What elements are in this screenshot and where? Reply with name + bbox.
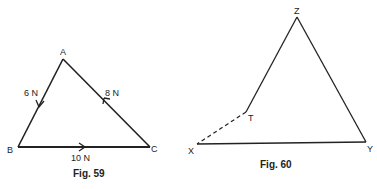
edge-tx-dashed: [197, 112, 246, 144]
vertex-b-label: B: [7, 145, 13, 155]
edge-xy: [197, 142, 366, 144]
vertex-z-label: Z: [294, 6, 300, 16]
force-ca-label: 8 N: [105, 88, 119, 98]
diagram-canvas: A B C 6 N 10 N 8 N Fig. 59 Z T X Y Fig. …: [0, 0, 377, 189]
edge-ca: [63, 59, 150, 147]
vertex-x-label: X: [188, 146, 194, 156]
edge-ab: [18, 59, 63, 147]
edge-zt: [246, 17, 297, 112]
figure-59-caption: Fig. 59: [73, 168, 105, 179]
figure-60-caption: Fig. 60: [260, 159, 292, 170]
vertex-y-label: Y: [367, 144, 373, 154]
figure-59: A B C 6 N 10 N 8 N Fig. 59: [7, 47, 158, 179]
vertex-t-label: T: [248, 113, 254, 123]
force-bc-label: 10 N: [71, 153, 90, 163]
vertex-a-label: A: [60, 47, 66, 57]
edge-yz: [297, 17, 366, 142]
force-ab-label: 6 N: [24, 88, 38, 98]
vertex-c-label: C: [151, 144, 158, 154]
figure-60: Z T X Y Fig. 60: [188, 6, 373, 170]
